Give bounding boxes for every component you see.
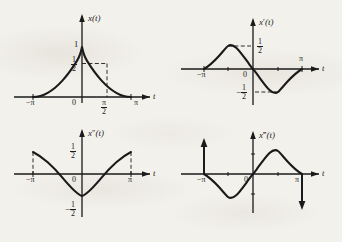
axis-label-t: t bbox=[153, 92, 155, 101]
plot-x-prime-t bbox=[171, 0, 342, 121]
impulse-arrow-up-neg-pi bbox=[201, 138, 208, 174]
tick-label-pi: π bbox=[128, 176, 132, 184]
y-value-one-half: 1 2 bbox=[257, 38, 263, 55]
panel-x-triple-prime-t: x‴(t) t −π 0 π bbox=[171, 121, 342, 242]
tick-label-neg-pi: −π bbox=[26, 99, 35, 107]
tick-label-pi-over-2: π 2 bbox=[101, 99, 107, 116]
tick-label-zero: 0 bbox=[72, 99, 76, 107]
y-axis bbox=[250, 18, 256, 105]
tick-label-zero: 0 bbox=[244, 176, 248, 184]
axis-label-t: t bbox=[322, 64, 324, 73]
figure-panel-grid: x(t) t −π 0 π π 2 1 1 2 bbox=[0, 0, 342, 242]
y-value-neg-one-half: − 1 2 bbox=[241, 84, 247, 101]
tick-label-zero: 0 bbox=[243, 71, 247, 79]
y-value-neg-one-half: − 1 2 bbox=[70, 201, 76, 218]
tick-label-zero: 0 bbox=[72, 176, 76, 184]
tick-label-neg-pi: −π bbox=[26, 176, 35, 184]
y-value-one-half: 1 2 bbox=[70, 143, 76, 160]
panel-x-double-prime-t: x″(t) t −π 0 π 1 2 − 1 2 bbox=[0, 121, 171, 242]
function-label-x-triple-prime-t: x‴(t) bbox=[259, 131, 275, 140]
y-value-one: 1 bbox=[74, 40, 78, 49]
y-axis bbox=[79, 129, 85, 217]
axis-label-t: t bbox=[322, 169, 324, 178]
tick-label-neg-pi: −π bbox=[197, 71, 206, 79]
tick-label-pi: π bbox=[299, 55, 303, 63]
y-value-one-half: 1 2 bbox=[71, 56, 77, 73]
function-label-x-t: x(t) bbox=[88, 14, 101, 23]
panel-x-t: x(t) t −π 0 π π 2 1 1 2 bbox=[0, 0, 171, 121]
tick-label-pi: π bbox=[295, 176, 299, 184]
axis-label-t: t bbox=[153, 169, 155, 178]
dashed-guide-half bbox=[82, 64, 107, 98]
impulse-arrow-down-pos-pi bbox=[299, 174, 306, 210]
tick-label-pi: π bbox=[134, 99, 138, 107]
tick-label-neg-pi: −π bbox=[197, 176, 206, 184]
panel-x-prime-t: x′(t) t −π 0 π 1 2 − 1 2 bbox=[171, 0, 342, 121]
y-axis bbox=[79, 14, 85, 103]
function-label-x-prime-t: x′(t) bbox=[259, 18, 273, 27]
function-label-x-double-prime-t: x″(t) bbox=[88, 129, 104, 138]
